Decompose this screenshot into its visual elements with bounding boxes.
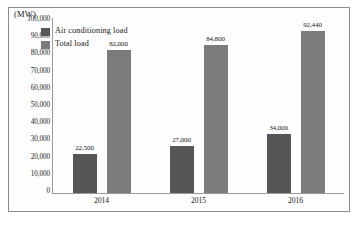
y-axis-tick: 30,000 xyxy=(31,137,50,144)
bar-value-label: 82,000 xyxy=(109,41,128,48)
y-axis-tick: 60,000 xyxy=(31,85,50,92)
bar[interactable] xyxy=(107,50,131,194)
y-axis-tick: 100,000 xyxy=(27,16,50,23)
bar-value-label: 92,440 xyxy=(303,22,322,29)
legend-swatch-total-load xyxy=(41,41,50,49)
plot-area: 22,50082,00027,00084,80034,00092,440 xyxy=(53,18,344,193)
bar[interactable] xyxy=(170,146,194,193)
bar-group: 27,00084,800 xyxy=(150,18,247,193)
bar-group: 22,50082,000 xyxy=(53,18,150,193)
bar[interactable] xyxy=(301,31,325,193)
x-axis-tick: 2014 xyxy=(94,197,109,205)
y-axis-tick: 0 xyxy=(47,188,51,195)
y-axis-tick: 20,000 xyxy=(31,154,50,161)
y-axis-tick: 40,000 xyxy=(31,120,50,127)
x-axis-tick-labels: 201420152016 xyxy=(53,197,344,211)
x-axis-tick: 2016 xyxy=(288,197,303,205)
bar-column: 34,000 xyxy=(267,18,291,193)
x-axis-line xyxy=(52,193,344,194)
y-axis-tick: 50,000 xyxy=(31,102,50,109)
bar-value-label: 22,500 xyxy=(75,145,94,152)
bar-value-label: 84,800 xyxy=(206,36,225,43)
bar-column: 27,000 xyxy=(170,18,194,193)
bar-chart-figure: (MW) 100,00090,00080,00070,00060,00050,0… xyxy=(0,0,358,227)
bar-value-label: 27,000 xyxy=(172,137,191,144)
x-axis-tick: 2015 xyxy=(191,197,206,205)
bar-value-label: 34,000 xyxy=(269,125,288,132)
legend-swatch-air-conditioning-load xyxy=(41,28,50,36)
bar-column: 84,800 xyxy=(204,18,228,193)
bar-column: 82,000 xyxy=(107,18,131,193)
bar-group: 34,00092,440 xyxy=(247,18,344,193)
y-axis-tick: 70,000 xyxy=(31,68,50,75)
bar[interactable] xyxy=(73,154,97,193)
y-axis-tick: 10,000 xyxy=(31,171,50,178)
bar-column: 92,440 xyxy=(301,18,325,193)
bar[interactable] xyxy=(204,45,228,193)
bar[interactable] xyxy=(267,134,291,194)
bar-column: 22,500 xyxy=(73,18,97,193)
